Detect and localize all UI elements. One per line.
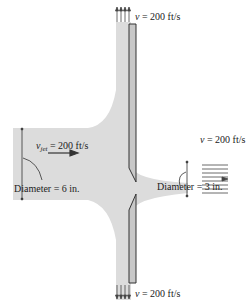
jet-velocity-label: vjet = 200 ft/s (36, 141, 88, 153)
orifice-plate-lower (129, 194, 136, 283)
bottom-velocity-label: v = 200 ft/s (135, 289, 180, 299)
fluid-jet (13, 22, 188, 300)
top-velocity-arrows (116, 7, 131, 22)
left-diameter-label: Diameter = 6 in. (14, 184, 80, 194)
top-velocity-label: v = 200 ft/s (135, 12, 180, 22)
right-velocity-label: v = 200 ft/s (200, 135, 245, 145)
orifice-plate-upper (129, 24, 136, 182)
jet-plate-diagram (0, 0, 251, 307)
right-diameter-label: Diameter = 3 in. (157, 182, 223, 192)
